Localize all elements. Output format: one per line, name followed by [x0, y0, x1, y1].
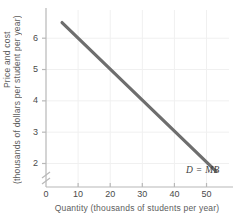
y-tick-label: 3 [24, 128, 38, 137]
curve-label-demand: D = MB [186, 165, 220, 175]
x-axis-title: Quantity (thousands of students per year… [30, 203, 244, 213]
demand-curve [62, 23, 216, 172]
plot-area [46, 10, 229, 187]
x-tick-label: 30 [132, 190, 152, 199]
x-tick-label: 20 [100, 190, 120, 199]
y-axis-title-line-2: (thousands of dollars per student per ye… [12, 8, 22, 184]
y-tick-label: 2 [24, 159, 38, 168]
x-tick-label: 40 [164, 190, 184, 199]
y-tick-label: 6 [24, 34, 38, 43]
x-tick-label: 50 [197, 190, 217, 199]
x-tick-label: 0 [36, 190, 56, 199]
chart-figure: Price and cost (thousands of dollars per… [0, 0, 244, 218]
tick-marks [42, 38, 207, 187]
y-axis-title-line-1: Price and cost [2, 8, 12, 88]
grid-lines [46, 10, 229, 187]
y-tick-label: 4 [24, 96, 38, 105]
y-tick-label: 5 [24, 65, 38, 74]
x-tick-label: 10 [68, 190, 88, 199]
